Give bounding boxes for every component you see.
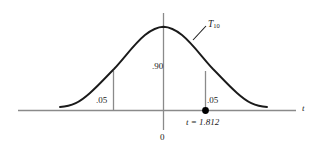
curve-callout-leader-line [193, 26, 206, 40]
t-distribution-figure: .05 .90 .05 t = 1.812 0 T10 t [0, 0, 317, 156]
left-tail-probability-label: .05 [96, 96, 107, 105]
critical-point-marker [202, 107, 209, 114]
curve-name-label: T10 [208, 20, 220, 30]
figure-canvas [0, 0, 317, 156]
right-tail-probability-label: .05 [207, 96, 218, 105]
x-axis-label: t [302, 104, 305, 113]
center-probability-label: .90 [152, 62, 163, 71]
curve-name-subscript: 10 [213, 22, 220, 29]
origin-label: 0 [160, 133, 165, 142]
critical-value-label: t = 1.812 [186, 118, 219, 127]
